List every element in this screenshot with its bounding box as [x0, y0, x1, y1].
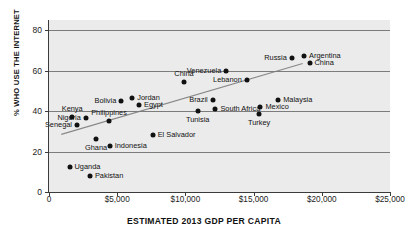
data-point-label: Nigeria: [57, 114, 80, 121]
data-point[interactable]: [94, 137, 99, 142]
data-point[interactable]: [107, 143, 112, 148]
data-point-label: Philippines: [91, 109, 127, 116]
data-point[interactable]: [67, 164, 72, 169]
internet-usage-scatter-chart: KenyaSenegalNigeriaGhanaUgandaPakistanIn…: [0, 0, 408, 235]
y-axis-title: % WHO USE THE INTERNET: [12, 0, 21, 133]
data-point-label: Uganda: [75, 163, 101, 170]
x-tick-label-15000: $15,000: [239, 196, 269, 204]
data-point[interactable]: [87, 173, 92, 178]
plot-area: KenyaSenegalNigeriaGhanaUgandaPakistanIn…: [49, 20, 390, 192]
data-point-label: Brazil: [189, 96, 207, 103]
x-tick-label-10000: $10,000: [171, 196, 201, 204]
data-point[interactable]: [210, 97, 215, 102]
data-point-label: Venezuela: [187, 67, 222, 74]
data-point-label: Ghana: [85, 144, 107, 151]
data-point-label: Egypt: [144, 101, 163, 108]
data-point[interactable]: [213, 107, 218, 112]
data-point[interactable]: [224, 68, 229, 73]
data-point[interactable]: [75, 123, 80, 128]
data-point-label: South Africa: [220, 105, 260, 112]
data-point-label: China: [315, 59, 334, 66]
data-point[interactable]: [258, 105, 263, 110]
data-point[interactable]: [119, 98, 124, 103]
gridline-y-80: [49, 30, 390, 31]
data-point[interactable]: [276, 97, 281, 102]
data-point-label: Tunisia: [186, 116, 210, 123]
y-tick-mark-60: [45, 71, 49, 72]
data-point-label: Kenya: [62, 105, 83, 112]
data-point-label: Russia: [264, 55, 287, 62]
data-point-label: Turkey: [248, 119, 270, 126]
data-point[interactable]: [182, 79, 187, 84]
y-tick-label-40: 40: [18, 107, 42, 116]
y-tick-mark-40: [45, 111, 49, 112]
x-axis-line: [49, 192, 391, 193]
x-tick-label-5000: $5,000: [105, 196, 130, 204]
data-point-label: Pakistan: [95, 172, 123, 179]
data-point[interactable]: [130, 95, 135, 100]
data-point[interactable]: [195, 109, 200, 114]
data-point-label: Indonesia: [115, 142, 147, 149]
data-point-label: Lebanon: [213, 76, 242, 83]
y-tick-label-0: 0: [18, 188, 42, 197]
y-tick-label-80: 80: [18, 26, 42, 35]
data-point[interactable]: [307, 60, 312, 65]
data-point[interactable]: [244, 77, 249, 82]
data-point[interactable]: [83, 116, 88, 121]
data-point-label: Bolivia: [95, 97, 117, 104]
data-point[interactable]: [257, 112, 262, 117]
data-point-label: Malaysia: [283, 96, 312, 103]
y-axis-line: [48, 20, 49, 193]
data-point[interactable]: [150, 133, 155, 138]
x-tick-label-25000: $25,000: [375, 196, 405, 204]
data-point[interactable]: [302, 54, 307, 59]
x-axis-title: ESTIMATED 2013 GDP PER CAPITA: [0, 216, 408, 226]
data-point[interactable]: [289, 56, 294, 61]
data-point-label: Mexico: [265, 103, 288, 110]
x-tick-label-0: 0: [47, 196, 52, 204]
y-tick-label-20: 20: [18, 148, 42, 157]
data-point-label: El Salvador: [158, 132, 196, 139]
data-point[interactable]: [137, 103, 142, 108]
y-tick-mark-20: [45, 152, 49, 153]
y-tick-mark-80: [45, 30, 49, 31]
data-point[interactable]: [107, 119, 112, 124]
y-tick-label-60: 60: [18, 67, 42, 76]
x-tick-label-20000: $20,000: [307, 196, 337, 204]
